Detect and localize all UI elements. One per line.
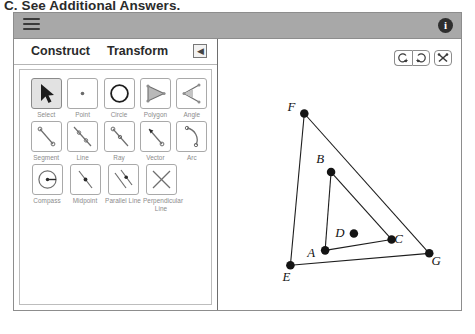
cursor-arrow-icon: [31, 78, 62, 109]
point-icon: [67, 78, 98, 109]
tool-perpendicular-line[interactable]: Perpendicular Line: [143, 164, 179, 213]
hamburger-bar: [23, 23, 40, 25]
segment-CA[interactable]: [325, 239, 391, 250]
tool-parallel-line[interactable]: Parallel Line: [105, 164, 141, 213]
tool-label: Perpendicular Line: [143, 197, 179, 213]
tool-label: Segment: [29, 154, 63, 162]
ray-icon: [104, 121, 135, 152]
point-label-D: D: [334, 226, 345, 240]
tool-vector[interactable]: Vector: [138, 121, 172, 162]
tool-point[interactable]: Point: [65, 78, 99, 119]
tool-label: Ray: [102, 154, 136, 162]
tool-angle[interactable]: Angle: [175, 78, 209, 119]
tool-label: Circle: [102, 111, 136, 119]
point-label-C: C: [394, 232, 403, 246]
geometry-app-window: i Construct Transform ◀ Select: [13, 12, 462, 311]
hamburger-bar: [23, 18, 40, 20]
point-A[interactable]: [321, 246, 330, 255]
segment-FG[interactable]: [304, 114, 429, 254]
collapse-panel-icon[interactable]: ◀: [193, 44, 207, 58]
tool-label: Angle: [175, 111, 209, 119]
angle-icon: [176, 78, 207, 109]
tool-midpoint[interactable]: Midpoint: [67, 164, 103, 213]
line-icon: [67, 121, 98, 152]
construct-panel: Construct Transform ◀ Select: [14, 39, 218, 310]
app-header-bar: i: [14, 13, 461, 39]
tool-label: Compass: [29, 197, 65, 205]
tool-label: Midpoint: [67, 197, 103, 205]
tool-label: Vector: [138, 154, 172, 162]
midpoint-icon: [70, 164, 101, 195]
tool-polygon[interactable]: Polygon: [138, 78, 172, 119]
tool-label: Line: [65, 154, 99, 162]
tool-arc[interactable]: Arc: [175, 121, 209, 162]
point-F[interactable]: [300, 109, 309, 118]
tool-label: Point: [65, 111, 99, 119]
tool-row: Segment Line: [29, 121, 211, 162]
polygon-icon: [140, 78, 171, 109]
point-D[interactable]: [350, 229, 359, 238]
point-label-A: A: [306, 246, 315, 260]
panel-tab-bar: Construct Transform ◀: [14, 39, 217, 65]
figure-segments: [290, 114, 429, 266]
geometry-figure[interactable]: FBEADCG: [219, 39, 461, 310]
segment-EF[interactable]: [290, 114, 304, 266]
figure-labels: FBEADCG: [282, 100, 442, 285]
point-label-B: B: [316, 152, 324, 166]
tool-palette: Select Point Circl: [19, 69, 212, 305]
tool-label: Select: [29, 111, 63, 119]
tool-circle[interactable]: Circle: [102, 78, 136, 119]
tool-line[interactable]: Line: [65, 121, 99, 162]
point-B[interactable]: [327, 168, 336, 177]
tool-row: Select Point Circl: [29, 78, 211, 119]
vector-icon: [140, 121, 171, 152]
info-icon[interactable]: i: [438, 18, 453, 33]
tool-select[interactable]: Select: [29, 78, 63, 119]
segment-icon: [31, 121, 62, 152]
segment-AB[interactable]: [325, 172, 331, 250]
parallel-line-icon: [108, 164, 139, 195]
tool-label: Polygon: [138, 111, 172, 119]
hamburger-bar: [23, 28, 40, 30]
compass-icon: [32, 164, 63, 195]
point-label-G: G: [432, 254, 442, 268]
arc-icon: [176, 121, 207, 152]
tab-construct[interactable]: Construct: [31, 44, 90, 58]
tool-ray[interactable]: Ray: [102, 121, 136, 162]
tab-transform[interactable]: Transform: [107, 44, 168, 58]
hamburger-menu-icon[interactable]: [23, 18, 40, 33]
geometry-canvas[interactable]: FBEADCG: [219, 39, 461, 310]
tool-compass[interactable]: Compass: [29, 164, 65, 213]
tool-row: Compass Midpoint: [29, 164, 211, 213]
circle-icon: [104, 78, 135, 109]
point-E[interactable]: [286, 261, 295, 270]
point-label-E: E: [282, 270, 291, 284]
tool-label: Parallel Line: [105, 197, 141, 205]
perpendicular-line-icon: [146, 164, 177, 195]
tool-segment[interactable]: Segment: [29, 121, 63, 162]
point-label-F: F: [286, 100, 295, 114]
tool-label: Arc: [175, 154, 209, 162]
